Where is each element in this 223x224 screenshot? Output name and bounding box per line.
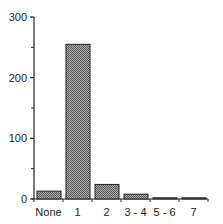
y-tick-label: 100 [9, 132, 27, 144]
bar-3-4 [124, 194, 148, 199]
x-tick-label: 1 [74, 206, 80, 218]
x-tick-label: 7 [190, 206, 196, 218]
x-axis: None123 - 45 - 67 [32, 199, 208, 218]
y-axis: 0100200300 [9, 11, 34, 205]
bar-chart: 0100200300 None123 - 45 - 67 [0, 0, 223, 224]
bar-1 [66, 44, 90, 199]
x-tick-label: None [35, 206, 61, 218]
bars [37, 44, 206, 199]
bar-None [37, 191, 61, 199]
bar-2 [95, 184, 119, 199]
x-tick-label: 5 - 6 [153, 206, 175, 218]
bar-5-6 [153, 198, 177, 199]
bar-7 [182, 198, 206, 199]
x-tick-label: 2 [103, 206, 109, 218]
y-tick-label: 200 [9, 72, 27, 84]
y-tick-label: 300 [9, 11, 27, 23]
x-tick-label: 3 - 4 [124, 206, 146, 218]
y-tick-label: 0 [21, 193, 27, 205]
